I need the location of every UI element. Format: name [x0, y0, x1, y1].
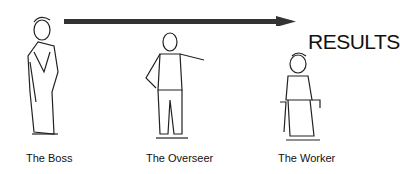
results-label: RESULTS [308, 30, 400, 54]
progress-arrow-icon [64, 16, 296, 26]
worker-figure-icon [276, 52, 328, 146]
boss-figure-icon [18, 12, 78, 144]
overseer-figure-icon [138, 30, 208, 146]
boss-label: The Boss [26, 152, 72, 164]
overseer-label: The Overseer [146, 152, 213, 164]
worker-label: The Worker [278, 152, 335, 164]
